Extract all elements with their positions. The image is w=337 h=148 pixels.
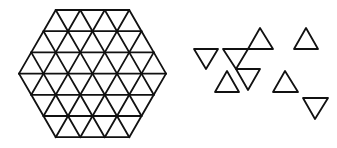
grid-slant-line <box>117 31 129 52</box>
grid-slant-line <box>105 116 117 137</box>
grid-slant-line <box>31 52 43 73</box>
grid-slant-line <box>129 31 141 52</box>
grid-slant-line <box>129 10 141 31</box>
grid-slant-line <box>154 74 166 95</box>
triangle-piece-up <box>215 71 239 92</box>
grid-slant-line <box>44 10 56 31</box>
grid-slant-line <box>68 74 80 95</box>
grid-slant-line <box>142 95 154 116</box>
grid-slant-line <box>105 31 117 52</box>
grid-slant-line <box>80 116 92 137</box>
grid-slant-line <box>44 95 56 116</box>
grid-slant-line <box>80 31 92 52</box>
triangle-piece-up <box>294 28 318 49</box>
grid-slant-line <box>80 52 92 73</box>
triangle-piece-up <box>248 28 273 49</box>
grid-slant-line <box>31 95 43 116</box>
grid-slant-line <box>19 74 31 95</box>
grid-slant-line <box>129 116 141 137</box>
grid-slant-line <box>31 31 43 52</box>
grid-slant-line <box>93 116 105 137</box>
triangle-piece-up <box>273 71 298 92</box>
grid-slant-line <box>129 95 141 116</box>
grid-slant-line <box>68 10 80 31</box>
grid-slant-line <box>117 95 129 116</box>
grid-slant-line <box>93 95 105 116</box>
grid-slant-line <box>93 52 105 73</box>
grid-slant-line <box>31 74 43 95</box>
grid-slant-line <box>93 74 105 95</box>
grid-slant-line <box>80 74 92 95</box>
grid-slant-line <box>68 116 80 137</box>
grid-slant-line <box>105 74 117 95</box>
triangle-piece-down <box>303 98 328 119</box>
grid-slant-line <box>105 10 117 31</box>
grid-slant-line <box>68 95 80 116</box>
grid-slant-line <box>93 10 105 31</box>
grid-slant-line <box>105 52 117 73</box>
grid-slant-line <box>93 31 105 52</box>
grid-slant-line <box>117 74 129 95</box>
grid-slant-line <box>142 31 154 52</box>
grid-slant-line <box>56 52 68 73</box>
grid-slant-line <box>19 52 31 73</box>
grid-slant-line <box>68 31 80 52</box>
grid-slant-line <box>129 52 141 73</box>
grid-slant-line <box>117 116 129 137</box>
grid-slant-line <box>142 52 154 73</box>
grid-slant-line <box>142 74 154 95</box>
triangle-piece-down <box>223 49 248 69</box>
grid-slant-line <box>154 52 166 73</box>
grid-slant-line <box>129 74 141 95</box>
grid-slant-line <box>56 74 68 95</box>
grid-slant-line <box>44 31 56 52</box>
grid-slant-line <box>117 52 129 73</box>
grid-slant-line <box>117 10 129 31</box>
triangle-piece-down <box>194 49 218 69</box>
grid-slant-line <box>44 74 56 95</box>
triangle-puzzle-figure <box>0 0 337 148</box>
grid-slant-line <box>44 52 56 73</box>
hexagon-triangle-grid <box>19 10 166 137</box>
grid-slant-line <box>105 95 117 116</box>
grid-slant-line <box>56 10 68 31</box>
grid-slant-line <box>44 116 56 137</box>
grid-slant-line <box>56 116 68 137</box>
grid-slant-line <box>56 31 68 52</box>
triangle-piece-down <box>236 69 260 90</box>
grid-slant-line <box>68 52 80 73</box>
grid-slant-line <box>80 10 92 31</box>
loose-triangle-pieces <box>194 28 328 119</box>
grid-slant-line <box>80 95 92 116</box>
grid-slant-line <box>56 95 68 116</box>
